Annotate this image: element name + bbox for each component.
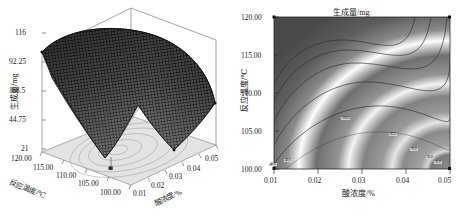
contour-fill-region (274, 17, 450, 169)
surface-z-tick-3: 44.75 (9, 116, 26, 124)
surface-x-tick-2: 110.00 (56, 172, 76, 180)
surface-y-tick-2: 0.03 (169, 173, 182, 181)
surface-z-tick-4: 21 (21, 145, 29, 153)
contour-plot-panel: 生成量/mg (238, 0, 475, 221)
surface-x-tick-4: 100.00 (100, 189, 121, 197)
surface-x-tick-0: 120.00 (11, 155, 32, 163)
surface-y-tick-1: 0.02 (151, 182, 164, 190)
contour-y-axis-title: 反应温度/℃ (238, 69, 249, 112)
contour-plot-svg (238, 0, 475, 221)
contour-y-tick-0: 120.00 (241, 14, 262, 22)
surface-plot-panel: 116 92.25 68.5 44.75 21 生成量/mg 120.00 11… (0, 0, 238, 221)
contour-x-tick-1: 0.02 (308, 177, 321, 185)
surface-z-tick-1: 92.25 (9, 58, 26, 66)
surface-z-axis-title: 生成量/mg (8, 74, 19, 110)
contour-x-tick-2: 0.03 (352, 177, 365, 185)
contour-level-label: 55.0 (434, 161, 442, 164)
contour-x-axis-title: 酸浓度/% (342, 190, 375, 198)
figure-root: 116 92.25 68.5 44.75 21 生成量/mg 120.00 11… (0, 0, 475, 221)
contour-level-label: 100.0 (341, 117, 350, 120)
surface-x-tick-3: 105.00 (78, 180, 99, 188)
surface-y-tick-3: 0.04 (187, 165, 200, 173)
contour-level-label: 40.0 (284, 159, 292, 162)
surface-y-tick-4: 0.05 (205, 155, 218, 163)
surface-z-tick-0: 116 (15, 29, 26, 37)
contour-y-tick-1: 115.00 (241, 52, 261, 60)
contour-x-tick-0: 0.01 (264, 177, 277, 185)
surface-y-tick-0: 0.01 (133, 190, 146, 198)
contour-level-label: 70.0 (410, 148, 418, 151)
contour-level-label: 55.0 (426, 156, 434, 159)
contour-x-ticks (274, 169, 450, 174)
contour-y-tick-3: 105.00 (241, 128, 262, 136)
contour-x-tick-3: 0.04 (396, 177, 409, 185)
contour-y-tick-4: 100.00 (241, 166, 262, 174)
contour-level-label: 85.0 (389, 133, 397, 136)
contour-level-label: 40.0 (269, 163, 277, 166)
contour-x-tick-4: 0.05 (438, 177, 451, 185)
surface-x-tick-1: 115.00 (33, 164, 53, 172)
